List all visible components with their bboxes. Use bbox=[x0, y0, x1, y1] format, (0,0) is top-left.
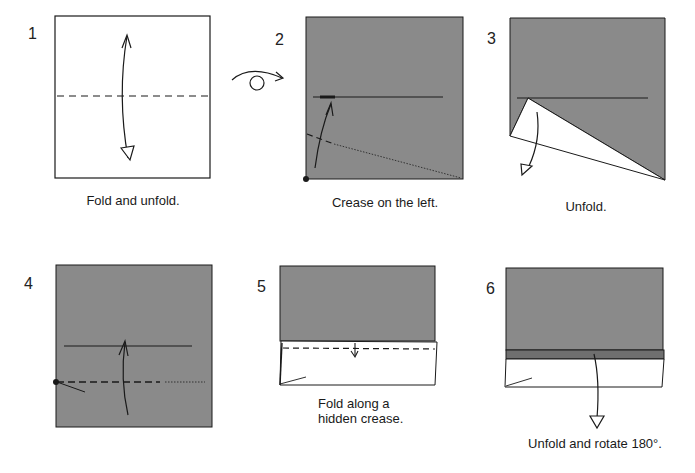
step-1-drawing bbox=[55, 16, 210, 178]
step-4-drawing bbox=[53, 265, 212, 427]
step-5-caption-line-1: Fold along a bbox=[318, 396, 403, 411]
step-6-number: 6 bbox=[486, 280, 495, 298]
step-5-caption-line-2: hidden crease. bbox=[318, 411, 403, 426]
origami-diagram: 1 bbox=[0, 0, 695, 473]
step-4-number: 4 bbox=[24, 275, 33, 293]
step-3-caption: Unfold. bbox=[536, 199, 636, 214]
step-6-caption: Unfold and rotate 180°. bbox=[510, 436, 680, 451]
step-6-drawing bbox=[505, 268, 664, 428]
turn-over-icon bbox=[232, 71, 283, 90]
step-1-caption: Fold and unfold. bbox=[58, 193, 208, 208]
step-5-caption: Fold along a hidden crease. bbox=[318, 396, 403, 426]
step-2-drawing bbox=[303, 17, 463, 182]
step-5-drawing bbox=[280, 266, 437, 385]
step-5-number: 5 bbox=[257, 278, 266, 296]
step-2-number: 2 bbox=[275, 31, 284, 49]
step-3-number: 3 bbox=[487, 30, 496, 48]
step-2-caption: Crease on the left. bbox=[305, 195, 465, 210]
step-3-drawing bbox=[510, 18, 665, 180]
